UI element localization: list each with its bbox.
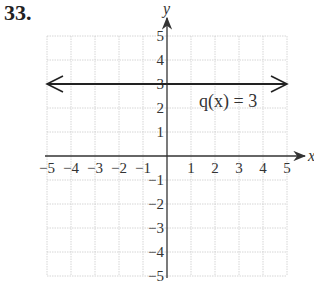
y-tick-label: 2: [157, 100, 165, 116]
y-tick-label: −5: [148, 268, 164, 284]
x-axis-label: x: [307, 147, 314, 164]
y-tick-label: −4: [148, 244, 164, 260]
y-tick-label: −2: [148, 196, 164, 212]
x-tick-label: 3: [235, 160, 243, 176]
x-tick-label: −5: [39, 160, 55, 176]
y-tick-label: 1: [157, 124, 165, 140]
y-tick-label: 5: [157, 28, 165, 44]
x-tick-label: 5: [283, 160, 291, 176]
x-tick-label: −4: [63, 160, 79, 176]
x-tick-label: 4: [259, 160, 267, 176]
y-tick-label: −3: [148, 220, 164, 236]
x-tick-label: 1: [187, 160, 195, 176]
x-tick-label: 2: [211, 160, 219, 176]
x-tick-label: −3: [87, 160, 103, 176]
y-tick-label: −1: [148, 172, 164, 188]
y-axis-label: y: [161, 0, 171, 18]
x-tick-label: −2: [111, 160, 127, 176]
function-label: q(x) = 3: [199, 91, 257, 112]
y-tick-label: 4: [157, 52, 165, 68]
coordinate-plane: xy−5−4−3−2−11234554321−1−2−3−4−5q(x) = 3: [0, 0, 314, 290]
